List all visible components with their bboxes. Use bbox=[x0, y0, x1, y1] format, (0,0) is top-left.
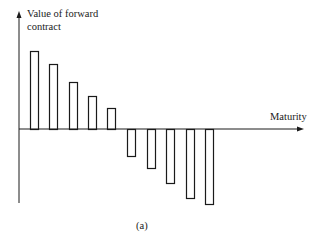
x-axis-arrow-icon bbox=[297, 127, 304, 132]
bar-9 bbox=[187, 130, 195, 199]
y-axis-arrow-icon bbox=[17, 11, 22, 18]
bar-3 bbox=[70, 83, 78, 130]
bar-10 bbox=[206, 130, 214, 205]
bar-8 bbox=[167, 130, 175, 184]
x-axis-label: Maturity bbox=[270, 110, 307, 123]
y-axis-label: Value of forward contract bbox=[27, 7, 98, 33]
bar-1 bbox=[31, 52, 39, 130]
bar-4 bbox=[89, 97, 97, 130]
y-axis-label-line-2: contract bbox=[27, 20, 98, 33]
figure-caption: (a) bbox=[136, 219, 148, 232]
bar-6 bbox=[128, 130, 136, 157]
bar-5 bbox=[108, 109, 116, 130]
bar-7 bbox=[148, 130, 156, 169]
bar-2 bbox=[50, 65, 58, 130]
y-axis-label-line-1: Value of forward bbox=[27, 7, 98, 20]
bar-series bbox=[31, 52, 214, 205]
